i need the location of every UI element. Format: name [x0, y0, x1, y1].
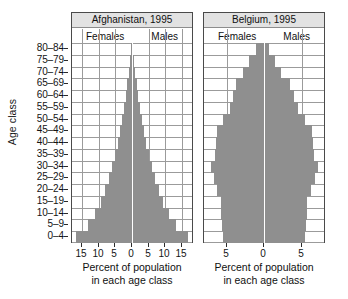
- bar-male-45-49: [132, 125, 144, 137]
- x-axis-afghanistan: Percent of population in each age class …: [71, 243, 193, 295]
- y-tick-mark-15-19: [64, 201, 68, 202]
- bar-female-5-9: [88, 219, 132, 231]
- y-tick-mark-20-24: [64, 189, 68, 190]
- bar-male-0-4: [132, 231, 188, 243]
- y-tick-mark-10-14: [64, 213, 68, 214]
- plot-area-afghanistan: [72, 29, 192, 243]
- bar-male-25-29: [264, 172, 315, 184]
- y-tick-mark-0-4: [64, 236, 68, 237]
- bar-male-25-29: [132, 172, 155, 184]
- y-tick-label-15-19: 15–19: [37, 196, 64, 206]
- y-tick-label-50-54: 50–54: [37, 114, 64, 124]
- x-tick-mark: [181, 243, 182, 247]
- y-tick-mark-35-39: [64, 154, 68, 155]
- y-tick-label-20-24: 20–24: [37, 184, 64, 194]
- bar-female-30-34: [211, 161, 264, 173]
- bar-male-20-24: [132, 184, 159, 196]
- y-tick-label-80-84: 80–84: [37, 43, 64, 53]
- bar-female-55-59: [124, 102, 132, 114]
- y-tick-mark-80-84: [64, 48, 68, 49]
- x-tick-mark: [114, 243, 115, 247]
- y-tick-label-60-64: 60–64: [37, 90, 64, 100]
- bar-male-5-9: [264, 219, 306, 231]
- y-tick-mark-30-34: [64, 166, 68, 167]
- y-axis-title: Age class: [6, 82, 18, 162]
- bar-female-10-14: [221, 208, 264, 220]
- y-tick-label-30-34: 30–34: [37, 161, 64, 171]
- y-tick-mark-65-69: [64, 83, 68, 84]
- x-tick-mark: [98, 243, 99, 247]
- bar-male-40-44: [132, 137, 146, 149]
- y-tick-mark-5-9: [64, 224, 68, 225]
- y-tick-label-5-9: 5–9: [48, 219, 64, 229]
- bar-male-40-44: [264, 137, 313, 149]
- x-axis-title-line2: in each age class: [91, 274, 172, 286]
- bar-male-60-64: [264, 90, 294, 102]
- panel-title-afghanistan: Afghanistan, 1995: [72, 14, 192, 26]
- y-tick-label-10-14: 10–14: [37, 208, 64, 218]
- y-tick-mark-50-54: [64, 119, 68, 120]
- bar-female-15-19: [221, 196, 264, 208]
- bar-female-50-54: [223, 114, 264, 126]
- bar-male-30-34: [132, 161, 152, 173]
- bar-male-10-14: [264, 208, 307, 220]
- y-tick-label-40-44: 40–44: [37, 137, 64, 147]
- y-tick-label-35-39: 35–39: [37, 149, 64, 159]
- y-tick-mark-55-59: [64, 107, 68, 108]
- bar-female-35-39: [215, 149, 265, 161]
- bar-female-35-39: [115, 149, 132, 161]
- x-axis-title-line1: Percent of population: [82, 261, 181, 273]
- bar-male-30-34: [264, 161, 318, 173]
- x-tick-mark: [226, 243, 227, 247]
- x-axis-title-line2: in each age class: [223, 274, 304, 286]
- bar-female-20-24: [105, 184, 132, 196]
- panel-belgium: Belgium, 1995 Females Males: [203, 12, 325, 243]
- bar-female-50-54: [122, 114, 132, 126]
- bar-male-5-9: [132, 219, 176, 231]
- plot-area-belgium: [204, 29, 324, 243]
- bar-male-75-79: [264, 55, 275, 67]
- vertical-gridline: [82, 29, 83, 243]
- bar-male-15-19: [132, 196, 163, 208]
- bar-female-55-59: [230, 102, 265, 114]
- bar-male-55-59: [264, 102, 298, 114]
- bar-female-20-24: [217, 184, 264, 196]
- x-axis-belgium: Percent of population in each age class …: [203, 243, 325, 295]
- y-tick-mark-40-44: [64, 142, 68, 143]
- bar-male-65-69: [264, 78, 290, 90]
- bar-female-60-64: [233, 90, 265, 102]
- bar-female-25-29: [109, 172, 132, 184]
- x-tick-mark: [164, 243, 165, 247]
- y-tick-label-65-69: 65–69: [37, 78, 64, 88]
- population-pyramid-figure: Age class 0–45–910–1415–1920–2425–2930–3…: [0, 0, 348, 299]
- bar-female-40-44: [216, 137, 264, 149]
- bar-female-75-79: [249, 55, 264, 67]
- center-axis-line: [132, 29, 133, 243]
- bar-male-50-54: [264, 114, 305, 126]
- bar-female-80-84: [256, 43, 264, 55]
- bar-female-10-14: [95, 208, 132, 220]
- x-tick-mark: [81, 243, 82, 247]
- y-tick-label-75-79: 75–79: [37, 55, 64, 65]
- bar-male-15-19: [264, 196, 307, 208]
- bar-female-25-29: [214, 172, 264, 184]
- y-tick-mark-70-74: [64, 72, 68, 73]
- bar-male-0-4: [264, 231, 305, 243]
- x-tick-mark: [131, 243, 132, 247]
- y-axis-tick-labels: 0–45–910–1415–1920–2425–2930–3435–3940–4…: [22, 28, 68, 243]
- y-tick-mark-60-64: [64, 95, 68, 96]
- x-tick-label: 15: [171, 248, 191, 259]
- panel-title-belgium: Belgium, 1995: [204, 14, 324, 26]
- bar-male-20-24: [264, 184, 311, 196]
- bar-female-0-4: [223, 231, 264, 243]
- bar-female-70-74: [243, 67, 264, 79]
- x-tick-mark: [148, 243, 149, 247]
- bar-female-30-34: [112, 161, 132, 173]
- x-tick-label: 0: [253, 248, 273, 259]
- y-tick-mark-25-29: [64, 177, 68, 178]
- bar-female-5-9: [222, 219, 264, 231]
- vertical-gridline: [182, 29, 183, 243]
- bar-male-70-74: [264, 67, 281, 79]
- x-axis-title-afghanistan: Percent of population in each age class: [59, 261, 205, 287]
- y-tick-label-0-4: 0–4: [48, 231, 64, 241]
